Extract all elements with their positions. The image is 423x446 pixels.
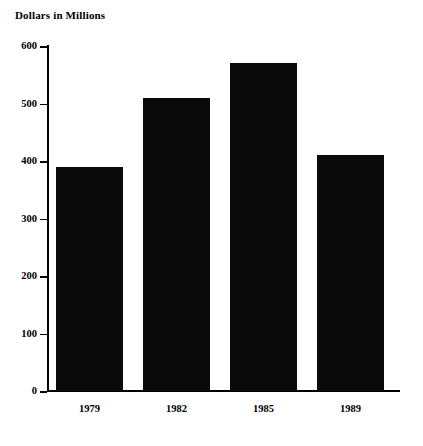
x-axis-tick-label: 1979 bbox=[56, 403, 123, 414]
bar bbox=[56, 167, 123, 391]
bar bbox=[317, 155, 384, 391]
y-axis-tick-mark bbox=[40, 276, 47, 278]
y-axis-tick-label: 500 bbox=[21, 98, 37, 109]
y-axis-tick-label: 0 bbox=[32, 386, 37, 397]
y-axis-tick-mark bbox=[40, 46, 47, 48]
y-axis-tick-mark bbox=[40, 104, 47, 106]
x-axis-tick-label: 1985 bbox=[230, 403, 297, 414]
y-axis-tick-label: 200 bbox=[21, 271, 37, 282]
chart-title: Dollars in Millions bbox=[15, 9, 105, 21]
y-axis-tick-label: 400 bbox=[21, 156, 37, 167]
y-axis-tick-label: 100 bbox=[21, 328, 37, 339]
bar-chart-figure: Dollars in Millions 0100200300400500600 … bbox=[0, 0, 423, 446]
x-axis-tick-label: 1982 bbox=[143, 403, 210, 414]
y-axis-tick-label: 600 bbox=[21, 41, 37, 52]
plot-area: 0100200300400500600 bbox=[47, 46, 400, 391]
y-axis-tick-mark bbox=[40, 334, 47, 336]
bar bbox=[230, 63, 297, 391]
y-axis-tick-label: 300 bbox=[21, 213, 37, 224]
x-axis-tick-label: 1989 bbox=[317, 403, 384, 414]
y-axis-tick-mark bbox=[40, 391, 47, 393]
y-axis-tick-mark bbox=[40, 219, 47, 221]
bar bbox=[143, 98, 210, 391]
y-axis-tick-mark bbox=[40, 161, 47, 163]
